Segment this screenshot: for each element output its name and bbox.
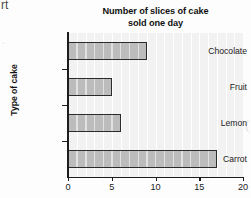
x-axis-tick [112, 177, 113, 181]
y-tick-label-fruit: Fruit [189, 82, 251, 92]
x-tick-label-20: 20 [228, 182, 251, 193]
x-tick-label-0: 0 [53, 182, 83, 193]
y-axis-tick [62, 69, 67, 70]
bar-gridline-overlay [69, 79, 111, 95]
chart-title-line-2: sold one day [60, 18, 251, 30]
y-axis-title: Type of cake [9, 54, 19, 126]
x-tick-label-5: 5 [97, 182, 127, 193]
y-axis-tick [62, 105, 67, 106]
y-axis-tick [62, 141, 67, 142]
x-axis-tick [68, 177, 69, 181]
y-axis-line [67, 32, 69, 178]
bar-gridline-overlay [69, 43, 146, 59]
x-axis-tick [156, 177, 157, 181]
bar-chocolate [68, 42, 147, 60]
chart-title: Number of slices of cake sold one day [60, 6, 251, 29]
corner-text-fragment: rt [1, 0, 8, 12]
chart-title-line-1: Number of slices of cake [60, 6, 251, 18]
x-axis-tick [199, 177, 200, 181]
bar-lemon [68, 114, 121, 132]
bar-chart-figure: rt . ( Number of slices of cake sold one… [0, 0, 251, 198]
y-tick-label-chocolate: Chocolate [189, 46, 251, 56]
x-tick-label-15: 15 [184, 182, 214, 193]
y-tick-label-lemon: Lemon [189, 118, 251, 128]
bar-fruit [68, 78, 112, 96]
x-tick-label-10: 10 [141, 182, 171, 193]
bar-gridline-overlay [69, 115, 120, 131]
y-tick-label-carrot: Carrot [189, 154, 251, 164]
x-axis-tick [243, 177, 244, 181]
left-margin-artifact: . [2, 36, 5, 46]
